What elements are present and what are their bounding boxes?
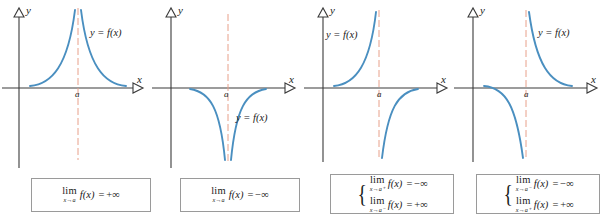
- limit-subscript: x→a⁺: [516, 207, 531, 213]
- x-axis-label: x: [137, 73, 142, 85]
- curve-right-branch: [231, 89, 266, 160]
- panel-1: y x a y = f(x) lim x→a f(x) = +∞: [0, 0, 152, 218]
- limit-lim-text: lim: [370, 175, 385, 186]
- limit-subscript: x→a: [64, 197, 76, 203]
- curve-left-branch: [484, 86, 523, 158]
- function-label: y = f(x): [538, 27, 570, 38]
- curve-left-branch: [334, 12, 376, 86]
- point-a-label: a: [377, 89, 382, 99]
- limit-equals: =: [247, 189, 253, 200]
- limit-operator: lim x→a: [211, 186, 226, 203]
- limit-statement: lim x→a⁻ f(x) = −∞: [516, 175, 574, 192]
- limit-subscript: x→a: [213, 197, 225, 203]
- limit-statement: lim x→a f(x) = −∞: [211, 186, 269, 203]
- curve-left-branch: [30, 10, 75, 86]
- y-axis-arrowhead: [468, 8, 478, 17]
- limit-equals: =: [98, 189, 104, 200]
- panel-2: y x a y = f(x) lim x→a f(x) = −∞: [152, 0, 304, 218]
- limit-statement: lim x→a⁻ f(x) = +∞: [370, 196, 428, 213]
- left-brace: {: [358, 181, 367, 207]
- limit-statement: lim x→a f(x) = +∞: [62, 186, 120, 203]
- limit-body: f(x): [388, 199, 403, 210]
- panel-3-plot: y x a y = f(x): [304, 0, 456, 170]
- limit-subscript: x→a⁻: [516, 186, 531, 192]
- limit-lim-text: lim: [62, 186, 77, 197]
- limit-body: f(x): [229, 189, 244, 200]
- limit-value: −∞: [560, 178, 573, 189]
- limit-statement-group: lim x→a⁻ f(x) = −∞ lim x→a⁺ f(x) = +∞: [516, 175, 574, 212]
- panel-3-formula-box: { lim x→a⁺ f(x) = −∞ lim x→a⁻ f(x): [330, 174, 454, 214]
- limit-value: −∞: [255, 189, 268, 200]
- point-a-label: a: [224, 89, 229, 99]
- limit-operator: lim x→a: [62, 186, 77, 203]
- x-axis-label: x: [591, 73, 596, 85]
- limit-lim-text: lim: [516, 175, 531, 186]
- function-label: y = f(x): [236, 112, 268, 123]
- limit-equals: =: [406, 199, 412, 210]
- panel-3: y x a y = f(x) { lim x→a⁺ f(x) = −∞: [304, 0, 456, 218]
- panel-1-plot: y x a y = f(x): [0, 0, 152, 170]
- function-label: y = f(x): [90, 27, 122, 38]
- curve-left-branch: [190, 89, 225, 160]
- limit-operator: lim x→a⁺: [516, 196, 531, 213]
- limit-operator: lim x→a⁺: [370, 175, 385, 192]
- figure-sheet: y x a y = f(x) lim x→a f(x) = +∞: [0, 0, 606, 218]
- y-axis-label: y: [480, 4, 485, 16]
- limit-lim-text: lim: [370, 196, 385, 207]
- limit-value: −∞: [414, 178, 427, 189]
- limit-operator: lim x→a⁻: [516, 175, 531, 192]
- curve-right-branch: [382, 89, 418, 158]
- panel-1-formula-box: lim x→a f(x) = +∞: [31, 178, 151, 212]
- limit-value: +∞: [414, 199, 427, 210]
- panel-4: y x a y = f(x) { lim x→a⁻ f(x) = −∞: [454, 0, 606, 218]
- limit-body: f(x): [80, 189, 95, 200]
- limit-statement-group: lim x→a⁺ f(x) = −∞ lim x→a⁻ f(x) = +∞: [370, 175, 428, 212]
- limit-lim-text: lim: [516, 196, 531, 207]
- y-axis-arrowhead: [14, 8, 24, 17]
- limit-body: f(x): [388, 178, 403, 189]
- limit-operator: lim x→a⁻: [370, 196, 385, 213]
- limit-statement: lim x→a⁺ f(x) = +∞: [516, 196, 574, 213]
- limit-equals: =: [552, 199, 558, 210]
- point-a-label: a: [524, 89, 529, 99]
- limit-body: f(x): [534, 199, 549, 210]
- curve-right-branch: [529, 12, 572, 86]
- y-axis-label: y: [26, 4, 31, 16]
- limit-value: +∞: [106, 189, 119, 200]
- limit-value: +∞: [560, 199, 573, 210]
- y-axis-arrowhead: [166, 8, 176, 17]
- limit-subscript: x→a⁺: [370, 186, 385, 192]
- limit-body: f(x): [534, 178, 549, 189]
- y-axis-arrowhead: [318, 8, 328, 17]
- function-label: y = f(x): [326, 29, 358, 40]
- limit-lim-text: lim: [211, 186, 226, 197]
- limit-subscript: x→a⁻: [370, 207, 385, 213]
- point-a-label: a: [75, 89, 80, 99]
- panel-4-plot: y x a y = f(x): [454, 0, 606, 170]
- panel-2-formula-box: lim x→a f(x) = −∞: [180, 178, 300, 212]
- x-axis-label: x: [289, 73, 294, 85]
- limit-equals: =: [552, 178, 558, 189]
- left-brace: {: [504, 181, 513, 207]
- x-axis-label: x: [441, 73, 446, 85]
- limit-statement: lim x→a⁺ f(x) = −∞: [370, 175, 428, 192]
- limit-equals: =: [406, 178, 412, 189]
- panel-4-formula-box: { lim x→a⁻ f(x) = −∞ lim x→a⁺ f(x): [476, 174, 600, 214]
- panel-2-plot: y x a y = f(x): [152, 0, 304, 170]
- y-axis-label: y: [178, 4, 183, 16]
- curve-right-branch: [81, 10, 126, 86]
- y-axis-label: y: [330, 4, 335, 16]
